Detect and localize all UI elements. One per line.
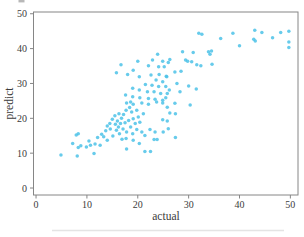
data-point [287,29,291,33]
data-point [161,59,165,63]
data-point [190,60,194,64]
x-tick-label: 10 [82,199,92,210]
data-point [157,73,161,77]
data-point [219,37,223,41]
data-point [161,130,165,134]
x-tick-label: 30 [184,199,194,210]
data-point [150,83,154,87]
x-tick-label: 20 [133,199,143,210]
data-point [128,106,132,110]
data-point [138,120,142,124]
data-point [124,93,128,97]
top-edge-artifact [19,0,25,2]
data-point [125,147,128,151]
data-point [125,101,128,105]
data-point [287,40,291,44]
data-point [115,128,119,132]
data-point [156,52,160,56]
data-point [161,98,165,102]
data-point [131,103,135,107]
data-point [199,64,203,68]
data-point [151,58,155,62]
data-point [120,137,124,141]
data-point [79,144,83,148]
scatter-plot: 0102030405001020304050 actual predict [0,0,304,237]
data-point [115,71,119,75]
data-point [59,153,63,157]
data-point [142,112,146,116]
data-point [123,121,127,125]
y-tick-label: 10 [17,148,27,159]
data-point [287,46,291,50]
data-point [127,119,131,123]
data-point [161,118,165,122]
data-point [124,109,128,113]
y-tick-label: 30 [17,78,27,89]
data-point [133,122,137,126]
data-point [174,112,178,116]
data-point [131,68,135,72]
data-point [114,122,118,126]
data-point [186,59,190,63]
data-point [149,73,153,77]
data-point [231,32,235,36]
y-tick-label: 20 [17,113,27,124]
data-point [77,132,81,136]
data-point [253,28,256,32]
data-point [117,112,121,116]
data-point [252,37,256,41]
data-point [113,114,117,118]
data-point [106,124,110,128]
data-point [119,63,123,67]
data-point [208,52,212,56]
data-point [166,105,170,109]
data-point [106,139,110,143]
data-point [140,101,144,105]
data-point [92,152,96,156]
data-point [138,88,142,92]
x-tick-label: 40 [235,199,245,210]
data-point [191,51,195,55]
data-point [131,95,135,99]
data-point [71,142,75,146]
data-point [130,110,134,114]
data-point [260,31,264,35]
data-point [119,122,123,126]
data-point [153,97,157,101]
data-point [155,138,159,142]
data-point [188,103,192,107]
data-point [178,90,182,94]
data-point [152,90,156,94]
data-point [167,127,171,131]
data-point [87,139,91,143]
data-point [200,33,204,37]
data-point [120,117,124,121]
data-point [138,142,142,146]
data-point [131,139,135,143]
data-point [147,97,151,101]
data-point [157,65,161,69]
data-point [166,92,170,96]
data-point [168,58,172,62]
data-point [149,150,153,154]
data-point [93,142,97,146]
data-point [181,50,185,54]
data-point [157,85,161,89]
data-point [131,132,135,136]
data-point [108,122,112,126]
data-point [195,63,199,67]
data-point [164,85,168,89]
data-point [168,88,172,92]
data-point [271,36,275,40]
data-point [138,96,142,100]
data-point [165,75,169,79]
data-point [140,130,144,134]
data-points [59,28,290,157]
data-point [173,70,177,74]
data-point [129,125,133,128]
data-point [168,111,172,115]
data-point [111,134,115,138]
data-point [152,138,156,142]
data-point [175,82,179,86]
data-point [135,128,139,132]
